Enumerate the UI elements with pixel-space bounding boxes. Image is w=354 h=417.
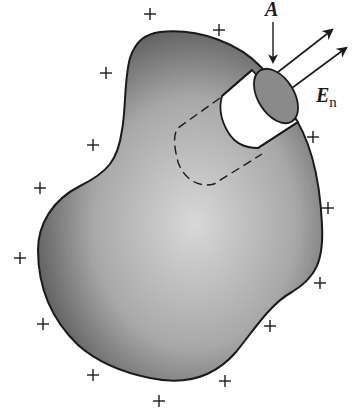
plus-sign-icon [34,182,46,194]
plus-sign-icon [322,202,334,214]
plus-sign-icon [87,139,99,151]
plus-sign-icon [264,320,276,332]
plus-sign-icon [307,131,319,143]
plus-sign-icon [87,369,99,381]
field-arrow-1 [278,30,332,72]
gaussian-pillbox-diagram: A En [0,0,354,417]
label-field-e: En [315,84,337,110]
plus-sign-icon [14,252,26,264]
plus-sign-icon [213,24,225,36]
diagram-canvas: A En [0,0,354,417]
plus-sign-icon [314,277,326,289]
label-area-a: A [263,0,278,20]
plus-sign-icon [144,8,156,20]
plus-sign-icon [219,375,231,387]
plus-sign-icon [100,67,112,79]
plus-sign-icon [153,395,165,407]
plus-sign-icon [37,318,49,330]
